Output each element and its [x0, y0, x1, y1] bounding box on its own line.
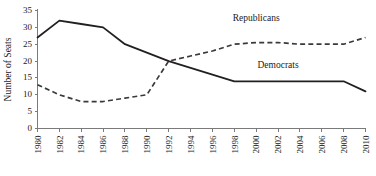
x-tick-label: 1980	[33, 135, 43, 154]
y-tick-label: 25	[23, 39, 33, 49]
x-tick-label: 2006	[317, 135, 327, 154]
series-lines	[38, 21, 366, 102]
y-axis: 05101520253035	[23, 5, 38, 133]
series-line-democrats	[38, 21, 366, 92]
x-tick-label: 2004	[295, 135, 305, 154]
y-tick-label: 35	[23, 5, 33, 15]
y-tick-label: 5	[28, 106, 33, 116]
x-tick-label: 1992	[164, 136, 174, 154]
x-tick-label: 1996	[208, 135, 218, 154]
x-axis: 1980198219841986198819901992199419961998…	[33, 129, 371, 154]
x-tick-label: 1990	[142, 135, 152, 154]
series-annotations: RepublicansDemocrats	[233, 13, 299, 70]
y-tick-label: 10	[23, 89, 33, 99]
x-tick-label: 1998	[230, 135, 240, 154]
y-tick-label: 0	[28, 123, 33, 133]
x-tick-label: 2000	[251, 135, 261, 154]
x-tick-label: 1994	[186, 135, 196, 154]
x-tick-label: 1984	[76, 135, 86, 154]
chart-container: 05101520253035 1980198219841986198819901…	[0, 0, 376, 176]
x-tick-label: 1988	[120, 135, 130, 154]
x-tick-label: 2008	[339, 135, 349, 154]
annotation-democrats: Democrats	[257, 60, 298, 70]
line-chart: 05101520253035 1980198219841986198819901…	[0, 0, 376, 176]
series-line-republicans	[38, 37, 366, 101]
x-tick-label: 1986	[98, 135, 108, 154]
y-tick-label: 20	[23, 56, 33, 66]
x-tick-label: 2002	[273, 136, 283, 154]
y-tick-label: 15	[23, 72, 33, 82]
y-tick-label: 30	[23, 22, 33, 32]
y-axis-title: Number of Seats	[3, 37, 13, 101]
annotation-republicans: Republicans	[233, 13, 280, 23]
x-tick-label: 1982	[55, 136, 65, 154]
x-tick-label: 2010	[361, 135, 371, 154]
